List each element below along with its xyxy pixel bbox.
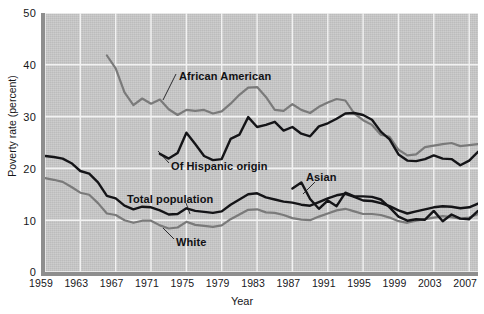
annotation-hispanic: Of Hispanic origin <box>171 160 268 172</box>
x-tick-1975: 1975 <box>162 277 202 289</box>
series-white <box>45 178 478 228</box>
y-axis-ticks: 50 40 30 20 10 0 <box>0 0 36 314</box>
x-tick-2007: 2007 <box>445 277 484 289</box>
series-lines <box>45 13 478 272</box>
series-of-hispanic-origin <box>160 113 478 165</box>
x-tick-1971: 1971 <box>127 277 167 289</box>
plot-area <box>41 13 478 272</box>
annotation-white: White <box>176 236 206 248</box>
x-tick-1983: 1983 <box>233 277 273 289</box>
y-tick-20: 20 <box>2 163 36 175</box>
x-tick-1991: 1991 <box>304 277 344 289</box>
y-tick-50: 50 <box>2 7 36 19</box>
y-tick-40: 40 <box>2 59 36 71</box>
y-tick-10: 10 <box>2 215 36 227</box>
x-tick-1999: 1999 <box>375 277 415 289</box>
x-axis-title: Year <box>0 295 484 307</box>
poverty-rate-chart: Poverty rate (percent) 50 40 30 20 10 0 … <box>0 0 484 314</box>
x-tick-1967: 1967 <box>92 277 132 289</box>
annotation-asian: Asian <box>306 171 336 183</box>
x-tick-2003: 2003 <box>410 277 450 289</box>
x-tick-1995: 1995 <box>339 277 379 289</box>
x-tick-1979: 1979 <box>198 277 238 289</box>
x-tick-1963: 1963 <box>56 277 96 289</box>
series-african-american <box>107 56 478 156</box>
annotation-african-american: African American <box>179 70 271 82</box>
x-tick-1987: 1987 <box>268 277 308 289</box>
x-tick-1959: 1959 <box>21 277 61 289</box>
annotation-total-population: Total population <box>127 193 213 205</box>
y-tick-30: 30 <box>2 111 36 123</box>
x-axis-line <box>41 272 478 276</box>
